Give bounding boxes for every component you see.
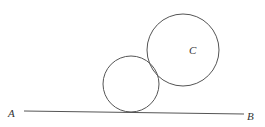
diagram-canvas: A B C: [0, 0, 265, 127]
large-circle: [147, 14, 219, 86]
label-a: A: [7, 107, 15, 119]
small-circle: [103, 56, 159, 112]
label-c: C: [189, 44, 197, 56]
label-b: B: [247, 110, 254, 122]
